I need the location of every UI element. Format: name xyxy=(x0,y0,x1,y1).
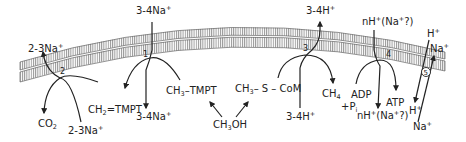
label-pi: +Pi xyxy=(341,101,357,114)
label-2-3na-in: 2-3Na+ xyxy=(68,124,103,136)
methanogenesis-membrane-diagram: 2 2-3Na+ CO2 2-3Na+ 1 CH2=TMPT 3-4Na+ 3-… xyxy=(0,0,466,142)
label-na-out-5: Na+ xyxy=(430,42,449,54)
label-ch3oh: CH3OH xyxy=(213,119,247,132)
label-3-4h-in: 3-4H+ xyxy=(286,110,315,122)
substrates: CH3–TMPT CH3– S – CoM CH3OH xyxy=(166,83,301,132)
label-ch4: CH4 xyxy=(322,88,341,101)
label-ch3-tmpt: CH3–TMPT xyxy=(166,85,217,98)
label-co2: CO2 xyxy=(38,118,57,131)
label-3-4na-in: 3-4Na+ xyxy=(136,110,171,122)
label-atp: ATP xyxy=(386,97,404,108)
reaction-4: 4 nH+(Na+?) ADP +Pi nH+(Na+?) ATP xyxy=(341,15,414,121)
reaction-number-2: 2 xyxy=(60,67,65,76)
arrow-ch3oh-to-ch3tmpt xyxy=(210,102,222,117)
label-adp: ADP xyxy=(351,89,372,100)
membrane xyxy=(20,27,445,82)
reaction-number-3: 3 xyxy=(303,44,308,53)
label-3-4h-out: 3-4H+ xyxy=(306,4,335,16)
arrow-ch3scom-to-ch4 xyxy=(278,55,333,83)
label-ch2-tmpt: CH2=TMPT xyxy=(88,104,143,117)
reaction-3: 3 3-4H+ 3-4H+ CH4 xyxy=(278,4,341,122)
label-nh-na-out: nH+(Na+?) xyxy=(362,15,414,27)
reaction-number-5: 5 xyxy=(424,69,428,77)
label-h-out-5: H+ xyxy=(427,27,440,39)
reaction-number-4: 4 xyxy=(386,50,391,59)
reaction-number-1: 1 xyxy=(143,50,148,59)
label-nh-na-in: nH+(Na+?) xyxy=(357,109,409,121)
arrow-adp-to-atp xyxy=(356,60,396,90)
label-ch3-s-com: CH3– S – CoM xyxy=(235,83,301,96)
label-na-in-5: Na+ xyxy=(413,120,432,132)
arrow-ch3tmpt-to-ch2tmpt xyxy=(125,58,180,88)
reaction-1: 1 CH2=TMPT 3-4Na+ 3-4Na+ xyxy=(88,4,180,122)
arrow-ch3oh-to-ch3scom xyxy=(236,102,248,117)
reaction-5-antiporter: 5 H+ Na+ H+ Na+ xyxy=(409,27,449,132)
label-3-4na-out: 3-4Na+ xyxy=(136,4,171,16)
